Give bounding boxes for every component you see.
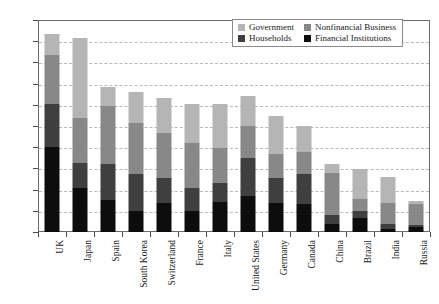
legend-item[interactable]: Households xyxy=(238,34,294,43)
stacked-bar[interactable] xyxy=(409,201,424,232)
bar-segment xyxy=(129,92,144,123)
x-axis-tick-label: France xyxy=(196,240,206,266)
bar-segment xyxy=(213,104,228,149)
stacked-bar[interactable] xyxy=(241,96,256,233)
x-axis-tick-label: Canada xyxy=(308,240,318,269)
stacked-bar[interactable] xyxy=(73,38,88,232)
bar-slot xyxy=(150,20,178,232)
stacked-bar[interactable] xyxy=(213,104,228,232)
bar-segment xyxy=(101,106,116,164)
x-axis-tick-label: Brazil xyxy=(364,240,374,263)
bar-slot xyxy=(318,20,346,232)
bar-segment xyxy=(185,211,200,232)
bar-segment xyxy=(101,87,116,107)
bar-segment xyxy=(157,98,172,133)
bar-segment xyxy=(185,143,200,188)
x-axis-tick xyxy=(402,232,403,237)
x-axis-tick-label: Switzerland xyxy=(168,240,178,285)
bar-segment xyxy=(101,200,116,232)
bar-segment xyxy=(157,178,172,203)
bar-segment xyxy=(325,215,340,223)
bar-segment xyxy=(241,126,256,158)
bar-segment xyxy=(73,188,88,232)
x-axis-tick-label: Japan xyxy=(84,240,94,262)
bar-segment xyxy=(241,96,256,127)
x-axis-tick xyxy=(374,232,375,237)
legend-label: Households xyxy=(249,34,292,43)
x-axis-tick xyxy=(122,232,123,237)
legend-swatch-icon xyxy=(238,35,245,42)
bar-segment xyxy=(381,203,396,224)
bar-segment xyxy=(185,188,200,211)
stacked-bar[interactable] xyxy=(45,34,60,232)
bar-segment xyxy=(45,104,60,148)
bar-segment xyxy=(409,204,424,225)
bar-slot xyxy=(66,20,94,232)
legend-swatch-icon xyxy=(304,24,311,31)
stacked-bar[interactable] xyxy=(129,92,144,232)
bar-slot xyxy=(178,20,206,232)
bar-slot xyxy=(94,20,122,232)
bar-segment xyxy=(269,178,284,203)
bar-segment xyxy=(353,218,368,232)
bar-segment xyxy=(241,196,256,232)
x-axis-tick xyxy=(150,232,151,237)
stacked-bar[interactable] xyxy=(381,177,396,232)
bar-segment xyxy=(353,169,368,199)
stacked-bar[interactable] xyxy=(269,116,284,232)
bar-segment xyxy=(325,173,340,215)
bar-segment xyxy=(409,227,424,232)
x-axis-tick xyxy=(206,232,207,237)
stacked-bar[interactable] xyxy=(185,104,200,232)
bar-segment xyxy=(129,123,144,174)
bar-segment xyxy=(185,104,200,143)
bar-segment xyxy=(213,202,228,232)
x-axis-tick xyxy=(38,232,39,237)
bar-segment xyxy=(325,224,340,232)
bar-segment xyxy=(325,164,340,172)
stacked-bar[interactable] xyxy=(353,169,368,232)
bar-segment xyxy=(269,154,284,177)
bar-slot xyxy=(346,20,374,232)
stacked-bar[interactable] xyxy=(297,126,312,232)
bar-slot xyxy=(38,20,66,232)
x-axis-tick-label: Italy xyxy=(224,240,234,257)
x-axis-tick xyxy=(234,232,235,237)
legend-label: Financial Institutions xyxy=(315,34,391,43)
x-axis-tick-label: United States xyxy=(252,240,262,291)
bar-segment xyxy=(129,211,144,232)
bar-segment xyxy=(45,55,60,103)
legend-item[interactable]: Government xyxy=(238,23,294,32)
bar-slot xyxy=(206,20,234,232)
bar-segment xyxy=(297,152,312,174)
stacked-bar[interactable] xyxy=(325,164,340,232)
bar-segment xyxy=(297,126,312,152)
bar-segment xyxy=(241,158,256,196)
x-axis-tick-label: Spain xyxy=(112,240,122,262)
legend-swatch-icon xyxy=(238,24,245,31)
bar-segment xyxy=(45,34,60,56)
legend-swatch-icon xyxy=(304,35,311,42)
x-axis-tick xyxy=(178,232,179,237)
bar-segment xyxy=(213,148,228,183)
bar-segment xyxy=(269,203,284,232)
bar-segment xyxy=(269,116,284,154)
x-axis-tick-label: China xyxy=(336,240,346,263)
bar-segment xyxy=(381,229,396,232)
legend-item[interactable]: Financial Institutions xyxy=(304,34,396,43)
bar-segment xyxy=(73,163,88,188)
bar-segment xyxy=(73,118,88,163)
bar-segment xyxy=(101,164,116,200)
bar-slot xyxy=(122,20,150,232)
bar-segment xyxy=(157,133,172,178)
x-axis-tick-label: India xyxy=(392,240,402,260)
bars-layer xyxy=(38,20,430,232)
stacked-bar[interactable] xyxy=(101,87,116,232)
x-axis-tick xyxy=(262,232,263,237)
bar-slot xyxy=(262,20,290,232)
legend-item[interactable]: Nonfinancial Business xyxy=(304,23,396,32)
bar-segment xyxy=(157,203,172,232)
bar-segment xyxy=(73,38,88,118)
chart-legend: GovernmentNonfinancial BusinessHousehold… xyxy=(232,19,403,47)
stacked-bar[interactable] xyxy=(157,98,172,232)
